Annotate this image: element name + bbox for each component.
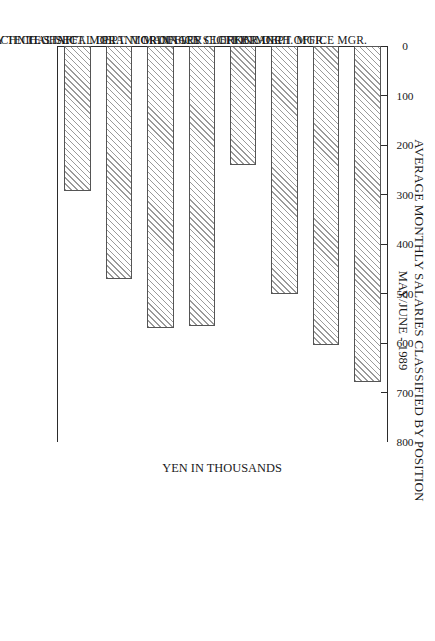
- axis-tick: [381, 343, 388, 344]
- axis-tick: [381, 95, 388, 96]
- axis-tick: [381, 392, 388, 393]
- bar: [271, 46, 297, 294]
- axis-tick: [381, 293, 388, 294]
- bar-chart-figure: AVERAGE MONTHLY SALARIES CLASSIFIED BY P…: [0, 0, 435, 641]
- bar: [313, 46, 339, 345]
- axis-tick-label: 800: [396, 436, 413, 448]
- bar: [64, 46, 90, 191]
- axis-tick-label: 100: [396, 90, 413, 102]
- axis-tick-label: 700: [396, 387, 413, 399]
- axis-tick-label: 400: [396, 238, 413, 250]
- axis-tick-label: 500: [396, 288, 413, 300]
- axis-tick: [381, 244, 388, 245]
- axis-tick: [381, 194, 388, 195]
- axis-tick-label: 0: [402, 40, 408, 52]
- value-axis-title: YEN IN THOUSANDS: [163, 461, 283, 476]
- axis-tick: [381, 145, 388, 146]
- bar: [230, 46, 256, 165]
- bar: [147, 46, 173, 328]
- category-label: ORDINARY TECH. STAFF: [0, 34, 78, 47]
- bar: [106, 46, 132, 279]
- axis-tick-label: 600: [396, 337, 413, 349]
- axis-tick-label: 200: [396, 139, 413, 151]
- bar: [189, 46, 215, 326]
- bar: [354, 46, 380, 382]
- axis-tick-label: 300: [396, 189, 413, 201]
